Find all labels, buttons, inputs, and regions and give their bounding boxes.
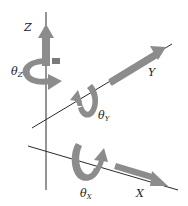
y-rotation-sub: Y xyxy=(105,115,110,123)
z-rotation-sub: Z xyxy=(18,71,23,79)
axes-diagram: Z θZ Y θY X θX xyxy=(0,0,188,206)
z-rotation-theta: θ xyxy=(11,65,18,78)
z-rotation-arrow-icon xyxy=(23,58,62,90)
y-rotation-arrow-icon xyxy=(70,84,98,118)
y-translation-arrow-icon xyxy=(110,46,166,84)
x-rotation-sub: X xyxy=(87,193,92,201)
y-rotation-label: θY xyxy=(98,110,109,123)
x-rotation-theta: θ xyxy=(80,187,87,200)
z-axis-label: Z xyxy=(24,22,32,33)
y-rotation-theta: θ xyxy=(98,109,105,122)
x-rotation-label: θX xyxy=(80,188,92,201)
z-axis-label-text: Z xyxy=(24,21,32,34)
y-axis-label-text: Y xyxy=(148,66,155,79)
x-axis-label: X xyxy=(136,188,144,199)
y-axis-label: Y xyxy=(148,67,155,78)
x-axis-label-text: X xyxy=(136,187,144,200)
x-translation-arrow-icon xyxy=(114,163,168,186)
x-rotation-arrow-icon xyxy=(72,143,108,181)
z-rotation-label: θZ xyxy=(11,66,23,79)
